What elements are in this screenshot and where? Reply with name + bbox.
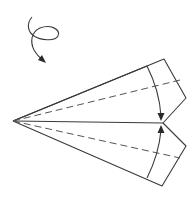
- origami-diagram: [0, 0, 196, 198]
- fold-arrow-bottom: [147, 125, 165, 178]
- fold-lines: [13, 80, 180, 158]
- fold-arrow-top: [147, 66, 165, 121]
- turn-over-icon: [28, 17, 58, 63]
- airplane-outline: [13, 59, 186, 186]
- valley-fold-bottom: [13, 121, 180, 158]
- diagram-canvas: [0, 0, 196, 198]
- center-line: [13, 121, 163, 123]
- top-edge-inner: [13, 66, 147, 121]
